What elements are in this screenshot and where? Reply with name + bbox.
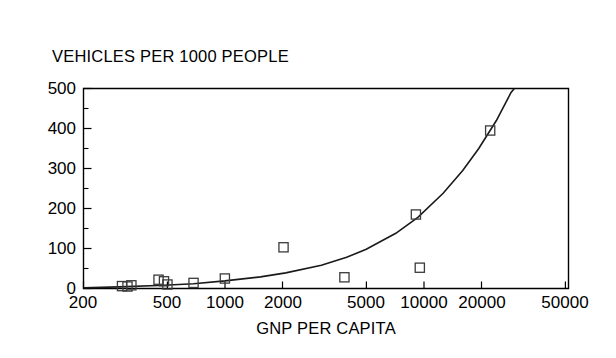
chart-canvas: VEHICLES PER 1000 PEOPLE 0 100 200 300 [0,0,616,358]
y-tick-100: 100 [48,239,76,258]
x-tick-5000: 5000 [347,293,385,312]
y-axis-title: VEHICLES PER 1000 PEOPLE [52,47,289,65]
x-tick-20000: 20000 [458,293,505,312]
y-tick-300: 300 [48,159,76,178]
x-tick-2000: 2000 [264,293,302,312]
x-tick-200: 200 [69,293,97,312]
scatter-plot-svg: VEHICLES PER 1000 PEOPLE 0 100 200 300 [0,0,616,358]
x-axis-title: GNP PER CAPITA [256,319,396,337]
x-tick-1000: 1000 [206,293,244,312]
x-tick-10000: 10000 [400,293,447,312]
x-tick-50000: 50000 [541,293,588,312]
y-tick-200: 200 [48,199,76,218]
y-tick-500: 500 [48,79,76,98]
x-tick-500: 500 [153,293,181,312]
y-tick-400: 400 [48,119,76,138]
